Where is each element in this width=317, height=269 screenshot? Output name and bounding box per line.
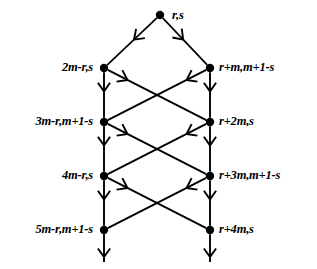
arrowhead-barb [117,134,128,136]
graph-node-left-row-1 [100,64,108,72]
node-label-left-row-1: 2m-r,s [62,61,93,74]
graph-node-root [156,11,164,19]
node-label-left-row-4: 5m-r,m+1-s [35,223,93,236]
arrowhead-barb [187,80,198,82]
root-edge-right [163,18,207,65]
graph-figure: r,s 2m-r,s r+m,m+1-s 3m-r,m+1-s r+2m,s 4… [0,0,317,269]
node-label-right-row-4: r+4m,s [219,223,254,236]
graph-node-left-row-3 [100,172,108,180]
graph-node-left-row-2 [100,118,108,126]
arrowhead-barb [187,188,198,190]
node-label-right-row-2: r+2m,s [219,115,254,128]
node-label-left-row-3: 4m-r,s [62,169,93,182]
root-node-label: r,s [172,9,184,22]
node-label-right-row-3: r+3m,m+1-s [219,169,280,182]
arrowhead-barb [187,134,198,136]
root-edge-left [107,18,157,65]
graph-node-right-row-2 [206,118,214,126]
graph-node-left-row-4 [100,226,108,234]
node-label-right-row-1: r+m,m+1-s [219,61,274,74]
graph-node-right-row-3 [206,172,214,180]
arrowhead-barb [117,80,128,82]
graph-node-right-row-4 [206,226,214,234]
arrowhead-barb [117,188,128,190]
node-label-left-row-2: 3m-r,m+1-s [35,115,93,128]
graph-node-right-row-1 [206,64,214,72]
